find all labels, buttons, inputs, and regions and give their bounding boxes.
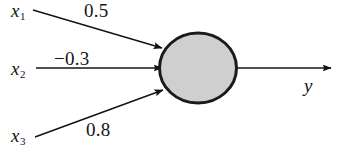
input-label-x1: x1 — [11, 1, 25, 22]
output-label-y: y — [304, 76, 312, 95]
weight-label-x3: 0.8 — [86, 120, 111, 139]
weight-label-x1: 0.5 — [84, 1, 109, 20]
diagram-canvas — [0, 0, 346, 149]
neuron-body — [160, 33, 237, 103]
input-label-x3: x3 — [11, 126, 25, 147]
weight-label-x2: −0.3 — [54, 49, 90, 68]
neuron-diagram: x1 x2 x3 0.5 −0.3 0.8 y — [0, 0, 346, 149]
input-label-x2: x2 — [11, 59, 25, 80]
